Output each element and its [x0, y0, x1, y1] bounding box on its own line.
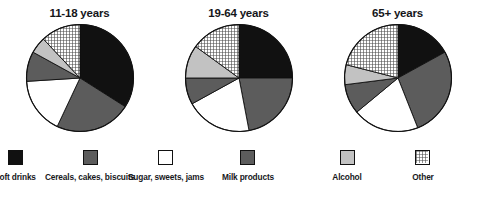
- pie-slice-soft-drinks: [239, 25, 293, 79]
- legend-item-soft-drinks[interactable]: Soft drinks: [0, 150, 36, 182]
- legend-swatch-other: [415, 150, 430, 165]
- pie-chart-title-19-64: 19-64 years: [208, 7, 268, 19]
- pie-chart-19-64: 19-64 years: [164, 0, 314, 134]
- legend-label-other: Other: [412, 172, 433, 182]
- pie-chart-title-65-plus: 65+ years: [372, 7, 423, 19]
- legend: Soft drinksCereals, cakes, biscuitsSugar…: [0, 150, 477, 199]
- pie-canvas-11-18: [24, 22, 136, 134]
- pie-chart-figure: 11-18 years 19-64 years 65+ years Soft d…: [0, 0, 477, 199]
- legend-label-soft-drinks: Soft drinks: [0, 172, 36, 182]
- legend-item-other[interactable]: Other: [412, 150, 433, 182]
- pie-canvas-65-plus: [342, 22, 454, 134]
- legend-swatch-sugar: [158, 150, 173, 165]
- legend-item-sugar[interactable]: Sugar, sweets, jams: [128, 150, 204, 182]
- legend-label-sugar: Sugar, sweets, jams: [128, 172, 204, 182]
- legend-item-milk[interactable]: Milk products: [222, 150, 274, 182]
- pie-canvas-19-64: [183, 22, 295, 134]
- legend-item-alcohol[interactable]: Alcohol: [332, 150, 361, 182]
- legend-label-alcohol: Alcohol: [332, 172, 361, 182]
- pie-chart-65-plus: 65+ years: [323, 0, 473, 134]
- legend-label-cereals: Cereals, cakes, biscuits: [45, 172, 135, 182]
- legend-swatch-alcohol: [340, 150, 355, 165]
- legend-swatch-milk: [240, 150, 255, 165]
- charts-row: 11-18 years 19-64 years 65+ years: [0, 0, 477, 148]
- legend-item-cereals[interactable]: Cereals, cakes, biscuits: [45, 150, 135, 182]
- pie-chart-11-18: 11-18 years: [5, 0, 155, 134]
- legend-label-milk: Milk products: [222, 172, 274, 182]
- pie-chart-title-11-18: 11-18 years: [50, 7, 110, 19]
- legend-swatch-cereals: [83, 150, 98, 165]
- legend-swatch-soft-drinks: [8, 150, 23, 165]
